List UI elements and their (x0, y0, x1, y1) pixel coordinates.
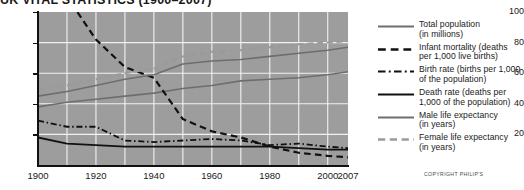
legend-line-swatch (378, 112, 414, 123)
y-axis-spine (37, 11, 39, 166)
series-line-2 (38, 12, 348, 157)
legend-item: Infant mortality (deaths per 1,000 live … (378, 43, 524, 62)
legend-item: Total population (in millions) (378, 20, 524, 39)
legend-label: Male life expectancy (in years) (419, 111, 498, 130)
x-tick-label: 1900 (27, 170, 48, 181)
legend-line-swatch (378, 89, 414, 100)
legend-line-swatch (378, 66, 414, 77)
y-tick-mark (33, 12, 37, 13)
x-axis-spine (37, 165, 349, 167)
y-tick-mark (33, 43, 37, 44)
legend-label: Total population (in millions) (419, 20, 480, 39)
x-tick-label: 1980 (259, 170, 280, 181)
x-tick-label: 1920 (85, 170, 106, 181)
y-tick-label: 100 (493, 6, 524, 16)
legend-label: Death rate (deaths per 1,000 of the popu… (419, 88, 511, 107)
series-line-6 (38, 41, 348, 90)
series-line-1 (38, 72, 348, 107)
x-tick-label: 2007 (337, 170, 358, 181)
legend-line-swatch (378, 44, 414, 55)
legend-item: Birth rate (births per 1,000 of the popu… (378, 65, 524, 84)
legend-item: Death rate (deaths per 1,000 of the popu… (378, 88, 524, 107)
legend-item: Male life expectancy (in years) (378, 111, 524, 130)
y-tick-mark (33, 104, 37, 105)
copyright-notice: COPYRIGHT PHILIP'S (424, 171, 483, 177)
legend-label: Birth rate (births per 1,000 of the popu… (419, 65, 520, 84)
x-tick-label: 1960 (201, 170, 222, 181)
legend-line-swatch (378, 21, 414, 32)
x-tick-label: 2000 (317, 170, 338, 181)
legend-item: Female life expectancy (in years) (378, 133, 524, 152)
legend-label: Infant mortality (deaths per 1,000 live … (419, 43, 508, 62)
plot-area (38, 12, 348, 165)
y-tick-mark (33, 134, 37, 135)
y-axis (0, 0, 33, 190)
legend-line-swatch (378, 134, 414, 145)
legend-label: Female life expectancy (in years) (419, 133, 508, 152)
x-tick-label: 1940 (143, 170, 164, 181)
chart-figure: UK VITAL STATISTICS (1900–2007) 10080604… (0, 0, 524, 190)
chart-legend: Total population (in millions)Infant mor… (378, 20, 524, 156)
plot-lines (38, 12, 348, 165)
y-tick-mark (33, 73, 37, 74)
